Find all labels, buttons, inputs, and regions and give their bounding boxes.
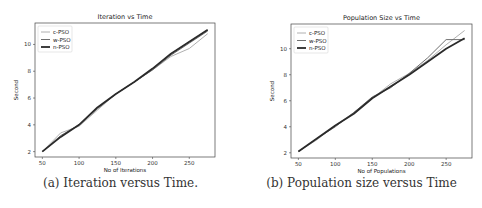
population-vs-time-chart: Population Size vs Time50100150200250246… — [241, 0, 482, 175]
y-tick-label: 6 — [284, 98, 288, 104]
legend-label: c-PSO — [53, 29, 70, 35]
x-tick-label: 250 — [441, 161, 452, 167]
x-tick-label: 50 — [39, 160, 46, 166]
caption-b: (b) Population size versus Time — [241, 176, 482, 190]
legend: c-PSOw-PSOn-PSO — [294, 27, 328, 53]
legend: c-PSOw-PSOn-PSO — [38, 26, 72, 52]
iteration-vs-time-chart: Iteration vs Time50100150200250246810No … — [0, 0, 241, 175]
legend-label: n-PSO — [309, 45, 326, 51]
legend-label: c-PSO — [309, 30, 326, 36]
caption-a: (a) Iteration versus Time. — [0, 176, 241, 190]
y-tick-label: 4 — [28, 122, 32, 128]
chart-panel-a: Iteration vs Time50100150200250246810No … — [0, 0, 241, 208]
chart-title: Population Size vs Time — [343, 14, 420, 22]
legend-label: w-PSO — [53, 37, 71, 43]
y-tick-label: 2 — [284, 150, 288, 156]
legend-label: n-PSO — [53, 44, 70, 50]
legend-label: w-PSO — [309, 38, 327, 44]
x-tick-label: 200 — [404, 161, 415, 167]
y-axis-label: Second — [13, 80, 19, 100]
x-tick-label: 50 — [295, 161, 302, 167]
x-tick-label: 100 — [74, 160, 85, 166]
y-tick-label: 6 — [28, 95, 32, 101]
x-tick-label: 100 — [330, 161, 341, 167]
chart-panel-b: Population Size vs Time50100150200250246… — [241, 0, 482, 208]
chart-title: Iteration vs Time — [98, 13, 153, 21]
y-tick-label: 8 — [28, 68, 32, 74]
x-axis-label: No of Iterations — [104, 167, 147, 173]
x-axis-label: No of Populations — [357, 168, 405, 175]
y-tick-label: 2 — [28, 149, 32, 155]
y-axis-label: Second — [269, 81, 275, 101]
x-tick-label: 200 — [147, 160, 158, 166]
series-line-n-pso — [298, 38, 464, 151]
x-tick-label: 250 — [184, 160, 195, 166]
y-tick-label: 10 — [24, 41, 31, 47]
y-tick-label: 10 — [280, 46, 287, 52]
x-tick-label: 150 — [111, 160, 122, 166]
y-tick-label: 4 — [284, 124, 288, 130]
x-tick-label: 150 — [367, 161, 378, 167]
y-tick-label: 8 — [284, 72, 288, 78]
